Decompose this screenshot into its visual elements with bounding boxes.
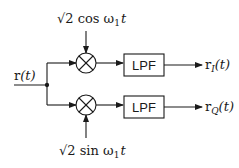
bottom-osc-label: √2 sin ω1t [59, 143, 126, 160]
input-label: r(t) [14, 68, 36, 83]
top-lpf-label: LPF [132, 58, 156, 73]
bottom-lpf-label: LPF [132, 100, 156, 115]
iq-demodulator-diagram: LPF LPF r(t) √2 cos ω1t √2 sin ω1t rI(t)… [0, 0, 239, 168]
top-output-label: rI(t) [205, 57, 230, 74]
bottom-output-label: rQ(t) [205, 99, 234, 116]
top-osc-label: √2 cos ω1t [57, 11, 127, 28]
top-mixer-icon [76, 53, 96, 73]
bottom-mixer-icon [76, 95, 96, 115]
